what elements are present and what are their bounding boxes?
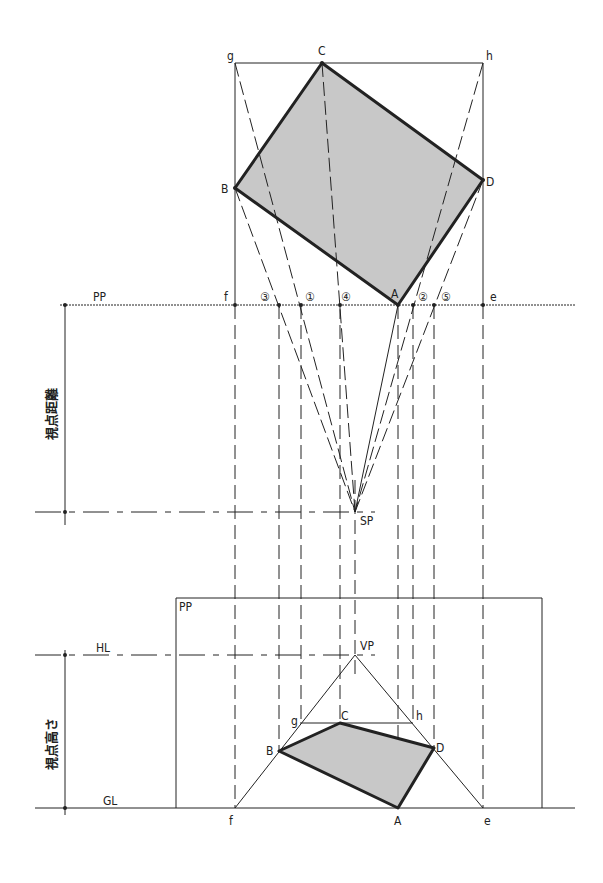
marker-4: ④ — [341, 290, 351, 304]
sight-line-A — [355, 305, 398, 512]
label-plan-e: e — [490, 290, 497, 304]
marker-5: ⑤ — [441, 290, 451, 304]
label-elev-h: h — [416, 709, 423, 723]
marker-3: ③ — [260, 290, 270, 304]
label-elev-g: g — [291, 714, 298, 728]
plan-rectangle — [235, 63, 483, 305]
label-sp: SP — [360, 514, 374, 528]
label-gl: GL — [103, 794, 117, 808]
label-plan-g: g — [227, 49, 234, 63]
label-elev-e: e — [484, 814, 491, 828]
label-eye-height: 視点高さ — [44, 718, 59, 771]
marker-2: ② — [418, 290, 428, 304]
label-plan-A: A — [391, 287, 399, 301]
label-plan-D: D — [486, 175, 494, 189]
label-plan-h: h — [486, 49, 493, 63]
label-vp: VP — [360, 639, 374, 653]
label-elev-C: C — [341, 709, 349, 723]
label-elev-A: A — [394, 814, 402, 828]
label-elev-f: f — [229, 814, 234, 828]
label-elev-D: D — [436, 741, 444, 755]
label-plan-pp: PP — [93, 290, 107, 304]
label-plan-f: f — [224, 290, 229, 304]
label-hl: HL — [96, 641, 110, 655]
label-plan-B: B — [221, 182, 228, 196]
label-plan-C: C — [318, 44, 326, 58]
marker-1: ① — [305, 290, 315, 304]
label-elev-pp: PP — [179, 600, 193, 614]
label-elev-B: B — [266, 744, 273, 758]
perspective-shape — [279, 723, 434, 808]
perspective-diagram: g C h B D A f e PP ③ ① ④ ② ⑤ SP 視点距離 PP … — [0, 0, 603, 883]
label-viewing-distance: 視点距離 — [44, 388, 59, 441]
